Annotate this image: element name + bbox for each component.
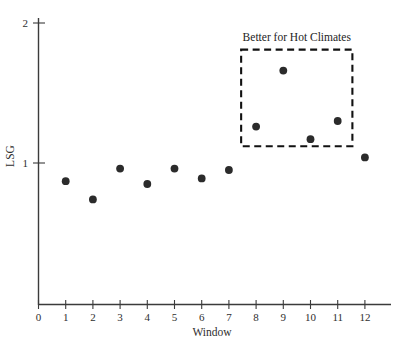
data-point-window-10[interactable]: [307, 135, 315, 143]
x-tick-label-0: 0: [36, 311, 42, 323]
data-point-window-11[interactable]: [334, 117, 342, 125]
x-tick-label-12: 12: [359, 311, 370, 323]
data-point-window-6[interactable]: [198, 175, 206, 183]
data-point-window-8[interactable]: [252, 123, 260, 131]
plot-canvas: 2 1 0 1 2 3 4 5 6 7 8 9: [0, 0, 398, 347]
x-tick-label-3: 3: [117, 311, 123, 323]
data-point-window-4[interactable]: [143, 180, 151, 188]
data-point-window-3[interactable]: [116, 165, 124, 173]
y-axis-title: LSG: [4, 145, 16, 167]
y-axis-ticks: 2 1: [23, 17, 46, 169]
x-tick-label-1: 1: [63, 311, 69, 323]
x-tick-label-5: 5: [172, 311, 178, 323]
x-tick-label-6: 6: [199, 311, 205, 323]
x-tick-label-7: 7: [226, 311, 232, 323]
scatter-plot-figure: 2 1 0 1 2 3 4 5 6 7 8 9: [0, 0, 398, 347]
data-point-window-2[interactable]: [89, 196, 97, 204]
x-axis-ticks: 0 1 2 3 4 5 6 7 8 9 10 11 12: [36, 300, 371, 323]
x-axis-title: Window: [192, 326, 232, 338]
x-tick-label-2: 2: [90, 311, 96, 323]
x-tick-label-9: 9: [281, 311, 287, 323]
annotation-label-better-for-hot-climates: Better for Hot Climates: [243, 31, 352, 43]
x-tick-label-4: 4: [145, 311, 151, 323]
x-tick-label-8: 8: [253, 311, 259, 323]
data-point-window-9[interactable]: [279, 67, 287, 75]
data-point-window-5[interactable]: [171, 165, 179, 173]
x-tick-label-10: 10: [305, 311, 317, 323]
data-point-window-7[interactable]: [225, 166, 233, 174]
data-point-window-1[interactable]: [62, 177, 70, 185]
y-tick-label-2: 2: [23, 17, 29, 29]
data-point-window-12[interactable]: [361, 154, 369, 162]
data-point-group: [62, 67, 369, 204]
x-tick-label-11: 11: [332, 311, 343, 323]
y-tick-label-1: 1: [23, 157, 29, 169]
annotation-box-better-for-hot-climates: [241, 50, 352, 147]
